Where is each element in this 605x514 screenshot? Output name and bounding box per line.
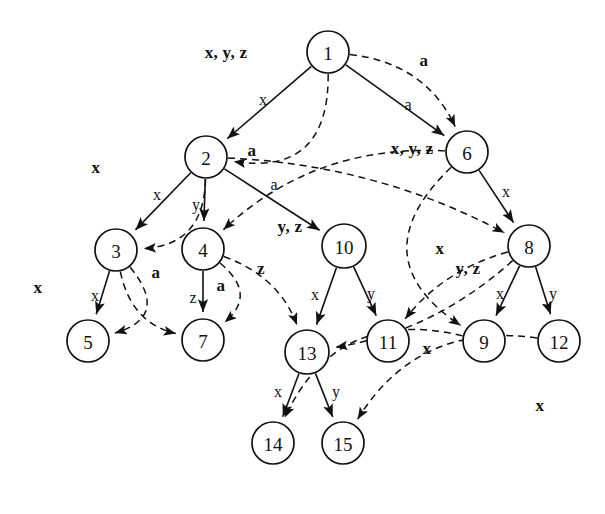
dashed-edge-label-4-13: z [257,260,265,277]
node-label-15: 15 [334,434,353,455]
solid-edge-label-8-12: y [549,286,557,302]
graph-canvas: 123456789101112131415 [0,0,605,514]
graph-node-15[interactable]: 15 [322,422,364,464]
dashed-edge-label-2-8: a [248,142,257,159]
node-label-7: 7 [198,331,208,352]
node-label-3: 3 [111,241,121,262]
nodes-layer: 123456789101112131415 [67,31,580,464]
solid-edge-1-6 [346,65,444,136]
solid-edge-2-3 [135,173,190,230]
solid-edge-2-4 [204,179,205,221]
solid-edge-label-13-15: y [332,384,340,400]
node-label-8: 8 [524,237,534,258]
node-label-11: 11 [379,332,397,353]
solid-edge-label-2-3: x [153,187,161,203]
node-label-12: 12 [550,332,569,353]
dashed-edge-label-1-2: x, y, z [205,44,248,61]
dashed-edge-6-9 [407,167,461,325]
solid-edge-label-6-8: x [502,184,510,200]
dashed-edge-1-6 [350,54,455,126]
node-label-13: 13 [298,343,317,364]
solid-edge-13-15 [315,373,332,417]
dashed-edge-label-1-6: a [420,52,429,69]
node-label-10: 10 [335,237,354,258]
dashed-edge-label-9-14: x [423,340,432,357]
graph-node-2[interactable]: 2 [185,136,227,178]
dashed-edge-label-3-7: a [152,264,161,281]
graph-node-14[interactable]: 14 [252,422,294,464]
node-label-14: 14 [264,434,284,455]
graph-node-9[interactable]: 9 [463,320,505,362]
graph-node-5[interactable]: 5 [67,320,109,362]
solid-edge-13-14 [283,374,299,417]
node-label-2: 2 [201,148,211,169]
node-label-9: 9 [479,332,489,353]
solid-edge-label-13-14: x [274,384,282,400]
node-label-6: 6 [462,143,472,164]
dashed-edge-label-6-9: y, z [278,218,303,235]
graph-node-11[interactable]: 11 [367,320,409,362]
solid-edge-label-10-11: y [367,286,375,302]
dashed-edge-label-8-11: y, z [456,260,481,277]
solid-edge-label-2-4: y [192,197,200,213]
dashed-edge-label-8-13: x [436,240,445,257]
graph-node-7[interactable]: 7 [182,319,224,361]
graph-node-1[interactable]: 1 [307,31,349,73]
graph-figure: 123456789101112131415 xaxyaxzxxyxyxyx, y… [0,0,605,514]
dashed-edge-label-3-5: x [34,279,43,296]
solid-edge-label-8-9: x [496,286,504,302]
dashed-edge-3-7 [120,272,175,334]
dashed-edge-label-6-4: x, y, z [391,140,434,157]
node-label-5: 5 [83,332,93,353]
dashed-edge-label-2-3: x [92,159,101,176]
graph-node-8[interactable]: 8 [508,225,550,267]
dashed-edge-label-4-7: a [217,277,226,294]
solid-edge-10-13 [317,268,337,325]
solid-edge-label-3-5: x [91,288,99,304]
solid-edge-label-1-6: a [404,97,411,113]
solid-edge-label-4-7: z [189,290,196,306]
node-label-1: 1 [323,43,333,64]
graph-node-10[interactable]: 10 [322,224,366,268]
node-label-4: 4 [198,240,208,261]
dashed-edge-label-12-15: x [536,397,545,414]
graph-node-6[interactable]: 6 [446,131,488,173]
graph-node-12[interactable]: 12 [538,320,580,362]
solid-edge-label-2-10: a [270,177,277,193]
solid-edge-label-10-13: x [311,287,319,303]
graph-node-3[interactable]: 3 [95,229,137,271]
solid-edge-1-2 [227,66,311,138]
solid-edge-label-1-2: x [259,92,267,108]
graph-node-4[interactable]: 4 [182,228,224,270]
graph-node-13[interactable]: 13 [285,330,329,374]
